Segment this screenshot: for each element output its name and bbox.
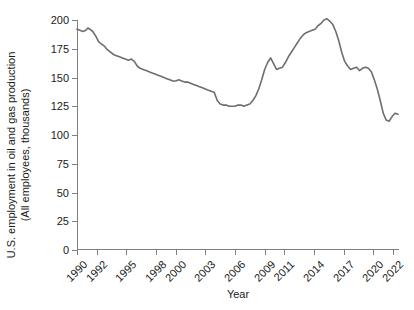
chart-container: U.S. employment in oil and gas productio…	[0, 0, 414, 310]
y-tick-label: 100	[51, 129, 69, 141]
y-axis-title-line1: U.S. employment in oil and gas productio…	[5, 52, 19, 259]
y-tick-label: 25	[57, 215, 69, 227]
x-tick	[176, 250, 177, 255]
y-tick-label: 200	[51, 14, 69, 26]
x-tick	[97, 250, 98, 255]
x-tick	[393, 250, 394, 255]
x-tick	[205, 250, 206, 255]
y-tick-label: 75	[57, 158, 69, 170]
y-tick-label: 125	[51, 100, 69, 112]
x-axis-title: Year	[77, 288, 399, 300]
x-tick	[344, 250, 345, 255]
x-tick	[265, 250, 266, 255]
y-axis-title-line2: (All employees, thousands)	[19, 89, 33, 222]
y-axis-title: U.S. employment in oil and gas productio…	[0, 0, 40, 310]
data-series-line	[77, 20, 399, 250]
x-tick	[77, 250, 78, 255]
y-tick-label: 50	[57, 187, 69, 199]
x-tick	[235, 250, 236, 255]
x-tick	[314, 250, 315, 255]
plot-area: 0255075100125150175200 19901992199519982…	[77, 20, 399, 250]
x-tick	[126, 250, 127, 255]
y-tick-label: 175	[51, 43, 69, 55]
y-tick-label: 150	[51, 72, 69, 84]
x-tick	[156, 250, 157, 255]
x-tick	[373, 250, 374, 255]
x-tick	[284, 250, 285, 255]
y-tick-label: 0	[63, 244, 69, 256]
